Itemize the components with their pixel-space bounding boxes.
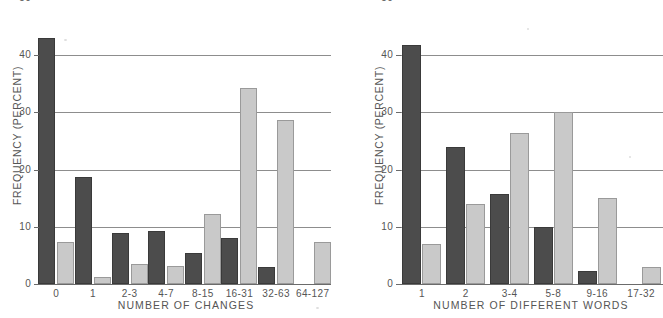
bar-series-left [38, 0, 331, 284]
chart-panel-number-of-changes: 01020304050 FREQUENCY (PERCENT) 012-34-7… [0, 0, 332, 318]
scan-speck [527, 28, 529, 30]
y-tick-0 [34, 284, 39, 285]
x-tick-label-1: 1 [419, 288, 425, 299]
bar-group [619, 0, 663, 284]
bar-light-3-4 [510, 133, 529, 284]
y-tick-30 [396, 112, 401, 113]
plot-area-right [400, 0, 663, 284]
y-tick-label-50: 50 [19, 0, 31, 3]
x-tick-label-0: 0 [53, 288, 59, 299]
y-tick-40 [34, 55, 39, 56]
bar-dark-0 [38, 38, 55, 284]
y-tick-0 [396, 284, 401, 285]
bar-light-1 [422, 244, 441, 284]
bar-dark-2 [446, 147, 465, 284]
bar-dark-8-15 [185, 253, 202, 284]
gridline-0 [38, 284, 331, 285]
bar-group [38, 0, 75, 284]
y-axis-title-left: FREQUENCY (PERCENT) [11, 85, 23, 205]
bar-group [75, 0, 112, 284]
x-tick-label-32-63: 32-63 [262, 288, 290, 299]
x-tick-label-4-7: 4-7 [158, 288, 174, 299]
x-tick-label-16-31: 16-31 [226, 288, 254, 299]
x-tick-label-3-4: 3-4 [502, 288, 518, 299]
y-tick-20 [34, 170, 39, 171]
y-tick-label-40: 40 [19, 50, 31, 60]
bar-group [532, 0, 576, 284]
bar-light-2 [466, 204, 485, 284]
x-tick-label-17-32: 17-32 [627, 288, 655, 299]
bar-light-4-7 [167, 266, 184, 284]
bar-light-1 [94, 277, 111, 284]
bar-group [111, 0, 148, 284]
gridline-0 [400, 284, 663, 285]
y-tick-label-40: 40 [381, 50, 393, 60]
bar-dark-9-16 [578, 271, 597, 284]
bar-dark-16-31 [221, 238, 238, 284]
y-tick-label-10: 10 [19, 222, 31, 232]
x-axis-title-left: NUMBER OF CHANGES [118, 299, 255, 311]
bar-light-16-31 [240, 88, 257, 284]
y-tick-30 [34, 112, 39, 113]
bar-light-8-15 [204, 214, 221, 284]
bar-light-32-63 [277, 120, 294, 284]
scan-speck [64, 39, 67, 41]
figure-canvas: 01020304050 FREQUENCY (PERCENT) 012-34-7… [0, 0, 663, 318]
bar-light-17-32 [642, 267, 661, 284]
x-tick-label-2-3: 2-3 [122, 288, 138, 299]
bar-dark-2-3 [112, 233, 129, 284]
bar-group [444, 0, 488, 284]
x-axis-title-right: NUMBER OF DIFFERENT WORDS [433, 299, 628, 311]
y-tick-label-50: 50 [381, 0, 393, 3]
bar-group [575, 0, 619, 284]
y-tick-label-0: 0 [25, 279, 31, 289]
bar-group [294, 0, 331, 284]
y-tick-label-0: 0 [387, 279, 393, 289]
bar-dark-3-4 [490, 194, 509, 284]
scan-speck [629, 156, 631, 158]
x-tick-label-5-8: 5-8 [546, 288, 562, 299]
bar-dark-1 [75, 177, 92, 284]
bar-group [148, 0, 185, 284]
bar-dark-4-7 [148, 231, 165, 284]
plot-area-left [38, 0, 331, 284]
bar-group [258, 0, 295, 284]
bar-light-2-3 [131, 264, 148, 284]
x-tick-label-1: 1 [90, 288, 96, 299]
y-tick-40 [396, 55, 401, 56]
bar-light-64-127 [314, 242, 331, 284]
y-axis-left: 01020304050 [38, 0, 39, 284]
x-tick-label-8-15: 8-15 [192, 288, 214, 299]
x-tick-label-9-16: 9-16 [586, 288, 608, 299]
bar-light-5-8 [554, 112, 573, 284]
bar-group [400, 0, 444, 284]
y-axis-right: 01020304050 [400, 0, 401, 284]
bar-group [488, 0, 532, 284]
y-axis-title-right: FREQUENCY (PERCENT) [373, 85, 385, 205]
x-tick-label-2: 2 [463, 288, 469, 299]
bar-light-0 [57, 242, 74, 284]
y-tick-20 [396, 170, 401, 171]
bar-group [221, 0, 258, 284]
x-tick-label-64-127: 64-127 [296, 288, 330, 299]
bar-dark-1 [402, 45, 421, 284]
bar-dark-32-63 [258, 267, 275, 284]
scan-speck [316, 307, 319, 309]
chart-panel-number-of-different-words: 01020304050 FREQUENCY (PERCENT) 123-45-8… [331, 0, 663, 318]
y-tick-10 [396, 227, 401, 228]
bar-group [185, 0, 222, 284]
bar-light-9-16 [598, 198, 617, 284]
y-tick-label-10: 10 [381, 222, 393, 232]
bar-series-right [400, 0, 663, 284]
bar-dark-5-8 [534, 227, 553, 284]
y-tick-10 [34, 227, 39, 228]
